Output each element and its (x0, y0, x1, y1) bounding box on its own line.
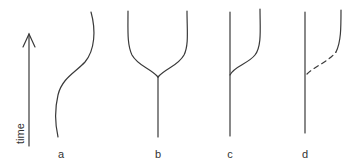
lineage-branch-right-b (158, 11, 187, 77)
panel-a: a (56, 12, 94, 160)
lineage-branch-c (230, 9, 260, 75)
panel-b: b (128, 11, 187, 160)
panel-label-a: a (58, 148, 65, 160)
panel-label-d: d (302, 148, 308, 160)
lineage-branch-dashed-d (307, 52, 336, 74)
panel-c: c (227, 9, 260, 160)
evolution-pattern-diagram: time a b c d (0, 0, 360, 165)
panel-label-b: b (155, 148, 161, 160)
time-axis: time (14, 34, 35, 146)
lineage-curve-a (56, 12, 94, 137)
panel-d: d (302, 10, 341, 160)
panel-label-c: c (227, 148, 233, 160)
lineage-branch-left-b (128, 11, 158, 77)
lineage-branch-solid-d (336, 10, 341, 52)
time-axis-label: time (14, 123, 26, 144)
